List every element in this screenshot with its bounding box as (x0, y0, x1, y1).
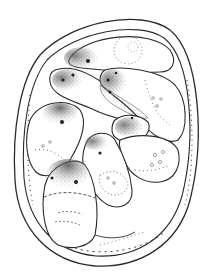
cyst-illustration (0, 0, 211, 274)
residual-body (95, 232, 145, 245)
illustration-canvas (0, 0, 211, 274)
body-bottom-left (43, 159, 97, 248)
body-top (64, 36, 174, 72)
